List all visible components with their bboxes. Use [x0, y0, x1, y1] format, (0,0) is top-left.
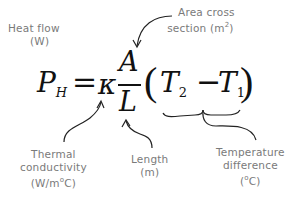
- temperature-unit-suffix: C): [249, 175, 261, 187]
- temperature-difference-label: Temperature difference (oC): [216, 146, 285, 188]
- area-text: Area cross: [178, 6, 235, 19]
- power-subscript: H: [56, 85, 67, 100]
- length-text: Length: [131, 153, 168, 166]
- power-symbol: P: [37, 66, 56, 99]
- t1-symbol: T: [218, 66, 237, 99]
- denominator-length: L: [119, 86, 137, 117]
- heat-conduction-diagram: Heat flow (W) Area cross section (m2) PH…: [0, 0, 308, 215]
- difference-text: difference: [216, 159, 285, 172]
- kappa-arrow-icon: [64, 102, 101, 142]
- temperature-brace-icon: [163, 110, 240, 117]
- numerator-area: A: [119, 46, 139, 77]
- heat-flow-label: Heat flow (W): [8, 22, 60, 48]
- t2-symbol: T: [160, 66, 179, 99]
- thermal-text: Thermal: [20, 148, 87, 161]
- open-paren: (: [144, 58, 157, 105]
- thermal-unit-suffix: C): [64, 177, 76, 189]
- close-paren: ): [240, 58, 253, 105]
- kappa-symbol: κ: [98, 68, 116, 101]
- temperature-unit: (oC): [216, 172, 285, 188]
- t2-term: T2: [160, 66, 187, 99]
- thermal-unit-prefix: (W/m: [31, 177, 60, 189]
- area-unit: section (m2): [166, 19, 235, 35]
- area-label: Area cross section (m2): [178, 6, 235, 35]
- length-unit: (m): [131, 166, 168, 179]
- t2-subscript: 2: [179, 85, 187, 100]
- area-unit-suffix: ): [229, 22, 233, 34]
- temperature-text: Temperature: [216, 146, 285, 159]
- heat-flow-unit: (W): [8, 35, 60, 48]
- equals-sign: =: [72, 64, 97, 99]
- area-unit-prefix: section (m: [167, 22, 224, 34]
- length-label: Length (m): [131, 153, 168, 179]
- heat-flow-text: Heat flow: [8, 22, 60, 35]
- conductivity-text: conductivity: [20, 161, 87, 174]
- thermal-unit: (W/moC): [20, 174, 87, 190]
- thermal-conductivity-label: Thermal conductivity (W/moC): [20, 148, 87, 190]
- lhs-power: PH: [37, 66, 67, 99]
